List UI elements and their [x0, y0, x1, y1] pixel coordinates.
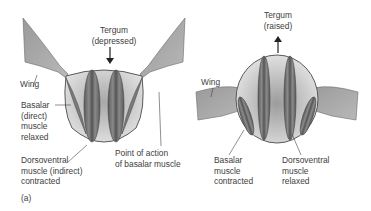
right-basalar-label: Basalar muscle contracted	[214, 155, 253, 187]
left-wing-label: Wing	[20, 79, 39, 90]
right-wing-label: Wing	[201, 77, 220, 88]
right-thorax-diagram	[196, 36, 358, 155]
left-tergum-label: Tergum (depressed)	[86, 25, 142, 46]
left-wing-right	[140, 18, 185, 78]
right-dorsoventral-label: Dorsoventral muscle relaxed	[282, 155, 329, 187]
left-dorsoventral-label: Dorsoventral muscle (indirect) contracte…	[21, 155, 82, 187]
panel-label: (a)	[21, 193, 31, 204]
right-tergum-label: Tergum (raised)	[256, 10, 300, 31]
left-wing-left	[23, 18, 68, 78]
left-basalar-label: Basalar (direct) muscle relaxed	[21, 100, 49, 142]
point-of-action-label: Point of action of basalar muscle	[115, 148, 181, 169]
